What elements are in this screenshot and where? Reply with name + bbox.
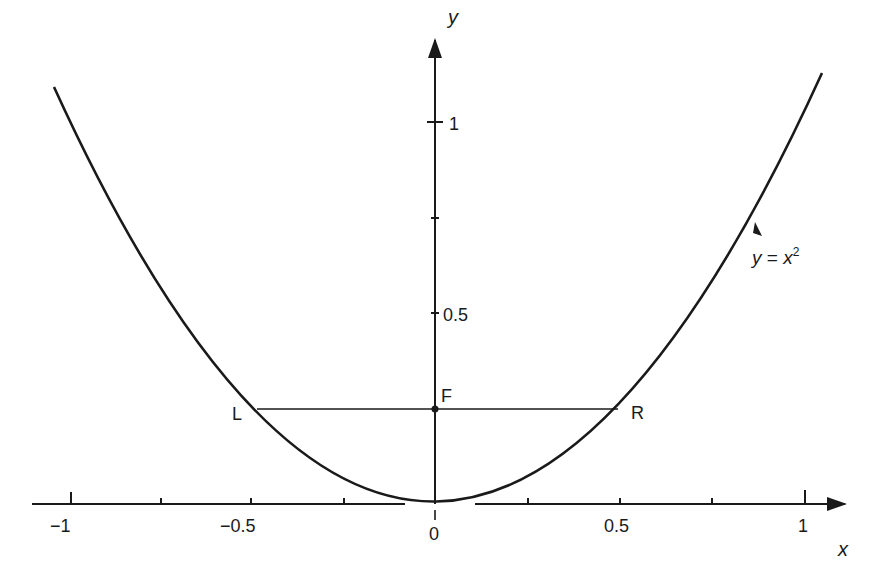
- x-tick-label-0: 0: [429, 524, 439, 544]
- y-axis: [427, 40, 443, 504]
- x-tick-label-1: 1: [798, 516, 808, 536]
- point-l-label: L: [232, 404, 242, 424]
- equation-equals: =: [762, 247, 784, 268]
- parabola-curve: [54, 73, 822, 502]
- parabola-diagram: y x 1 0.5 −1 −0.5 0 0.5 1 F L R y = x2: [0, 0, 878, 571]
- equation-exponent: 2: [793, 245, 800, 259]
- x-tick-label-neg0.5: −0.5: [220, 516, 256, 536]
- x-axis: [32, 490, 845, 520]
- focus-label: F: [441, 386, 452, 406]
- equation-pointer-icon: [753, 222, 762, 236]
- x-tick-label-0.5: 0.5: [604, 516, 629, 536]
- y-tick-label-0.5: 0.5: [443, 305, 468, 325]
- focus-point: [432, 406, 439, 413]
- y-tick-label-1: 1: [449, 114, 459, 134]
- equation-label: y = x2: [750, 245, 800, 268]
- x-tick-label-neg1: −1: [50, 516, 71, 536]
- x-axis-label: x: [837, 538, 849, 560]
- y-axis-label: y: [446, 6, 459, 28]
- point-r-label: R: [631, 403, 644, 423]
